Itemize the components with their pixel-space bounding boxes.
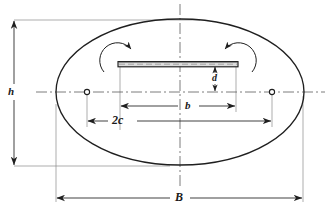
figure-container: h b 2c d B — [0, 0, 329, 214]
label-focal-distance: 2c — [112, 114, 123, 126]
label-crack-length: b — [185, 100, 191, 111]
rotation-arrow-ccw-icon — [100, 43, 131, 72]
label-width: B — [175, 191, 183, 203]
centerlines — [36, 4, 325, 186]
label-offset: d — [212, 73, 217, 83]
label-height: h — [8, 86, 14, 97]
focus-point-icon-left — [84, 89, 89, 94]
diagram-canvas — [0, 0, 329, 214]
rotation-arrow-cw-icon — [225, 43, 256, 72]
focus-point-icon-right — [269, 89, 274, 94]
crack-slot — [118, 62, 238, 67]
witness-lines — [14, 20, 303, 202]
